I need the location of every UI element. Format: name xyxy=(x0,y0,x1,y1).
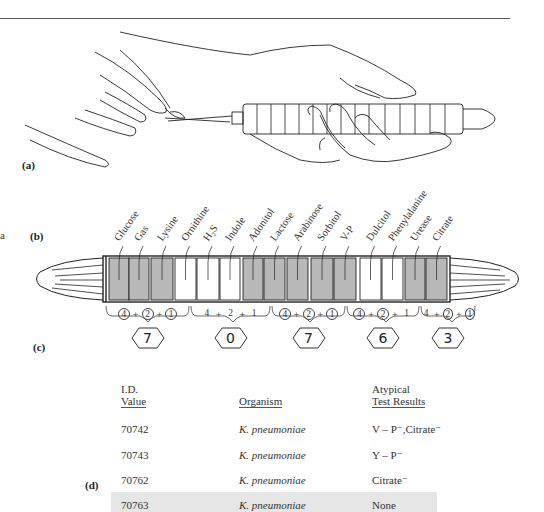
plus-sign: + xyxy=(240,309,246,320)
plus-sign: + xyxy=(133,309,139,320)
atypical-results: None xyxy=(372,499,396,511)
header-id-line2: Value xyxy=(121,395,146,408)
value: 1 xyxy=(248,308,260,320)
circled-value: 4 xyxy=(279,308,291,320)
value: 1 xyxy=(401,308,413,320)
plus-sign: + xyxy=(157,309,163,320)
atypical-results: Citrate⁻ xyxy=(372,474,408,487)
panel-label-c: (c) xyxy=(33,341,45,353)
id-value: 70742 xyxy=(121,423,149,435)
circled-value: 1 xyxy=(465,308,475,320)
value: 4 xyxy=(201,308,213,320)
organism-name: K. pneumoniae xyxy=(239,423,306,435)
plus-sign: + xyxy=(294,309,300,320)
code-group: 4+2+1 xyxy=(191,306,270,322)
hexagon-sum: 7 xyxy=(131,327,165,349)
circled-value: 2 xyxy=(303,308,315,320)
id-value: 70762 xyxy=(121,474,149,486)
id-value: 70763 xyxy=(121,499,149,511)
circled-value: 4 xyxy=(118,308,130,320)
plus-sign: + xyxy=(434,309,440,320)
atypical-results: V – P⁻,Citrate⁻ xyxy=(372,423,441,436)
top-rule xyxy=(0,18,510,19)
circled-value: 4 xyxy=(353,308,365,320)
id-value: 70743 xyxy=(121,449,149,461)
table-row: 70743K. pneumoniaeY – P⁻ xyxy=(111,442,437,469)
header-id: I.D. Value xyxy=(121,383,146,408)
plus-sign: + xyxy=(216,309,222,320)
header-results: Atypical Test Results xyxy=(372,383,425,408)
header-results-line2: Test Results xyxy=(372,395,425,408)
organism-name: K. pneumoniae xyxy=(239,449,306,461)
circled-value: 2 xyxy=(443,308,453,320)
hexagon-sum: 0 xyxy=(214,327,248,349)
header-organism: Organism xyxy=(239,395,282,408)
circled-value: 1 xyxy=(165,308,177,320)
code-group: 4+2+1 xyxy=(421,306,475,322)
table-row: 70763K. pneumoniaeNone xyxy=(111,492,437,512)
plus-sign: + xyxy=(392,309,398,320)
circled-value: 1 xyxy=(326,308,338,320)
plus-sign: + xyxy=(318,309,324,320)
hexagon-sum: 6 xyxy=(366,327,400,349)
plus-sign: + xyxy=(368,309,374,320)
organism-name: K. pneumoniae xyxy=(239,474,306,486)
plus-sign: + xyxy=(456,309,462,320)
header-results-line1: Atypical xyxy=(372,383,425,395)
hexagon-sum: 7 xyxy=(292,327,326,349)
code-group: 4+2+1 xyxy=(106,306,189,322)
circled-value: 2 xyxy=(142,308,154,320)
table-row: 70762K. pneumoniaeCitrate⁻ xyxy=(111,467,437,494)
panel-label-d: (d) xyxy=(85,479,98,491)
table-row: 70742K. pneumoniaeV – P⁻,Citrate⁻ xyxy=(111,416,437,443)
code-group: 4+2+1 xyxy=(347,306,419,322)
header-id-line1: I.D. xyxy=(121,383,146,395)
hexagon-sum: 3 xyxy=(431,327,465,349)
organism-name: K. pneumoniae xyxy=(239,499,306,511)
circled-value: 2 xyxy=(377,308,389,320)
atypical-results: Y – P⁻ xyxy=(372,449,402,462)
code-group: 4+2+1 xyxy=(272,306,345,322)
value: 4 xyxy=(421,308,431,320)
value: 2 xyxy=(225,308,237,320)
header-organism-label: Organism xyxy=(239,395,282,408)
